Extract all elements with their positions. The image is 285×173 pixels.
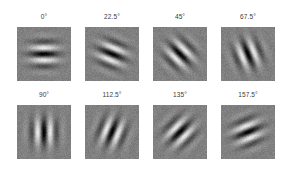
gabor-panel-0: 0° [17,13,71,81]
gabor-patch-image [17,27,71,81]
gabor-orientation-label: 45° [153,13,207,21]
gabor-orientation-label: 157.5° [221,91,275,99]
gabor-panel-22.5: 22.5° [85,13,139,81]
gabor-panel-67.5: 67.5° [221,13,275,81]
gabor-patch-image [85,27,139,81]
gabor-panel-135: 135° [153,91,207,159]
gabor-patch-image [85,105,139,159]
gabor-panel-112.5: 112.5° [85,91,139,159]
gabor-patch-image [17,105,71,159]
gabor-orientation-label: 22.5° [85,13,139,21]
gabor-patch-image [221,27,275,81]
gabor-patch-image [153,105,207,159]
gabor-filter-bank-figure: 0°22.5°45°67.5°90°112.5°135°157.5° [0,0,285,173]
gabor-orientation-label: 135° [153,91,207,99]
gabor-orientation-label: 90° [17,91,71,99]
gabor-orientation-label: 112.5° [85,91,139,99]
gabor-patch-image [221,105,275,159]
gabor-panel-45: 45° [153,13,207,81]
gabor-orientation-label: 0° [17,13,71,21]
gabor-panel-90: 90° [17,91,71,159]
gabor-patch-image [153,27,207,81]
gabor-orientation-label: 67.5° [221,13,275,21]
gabor-panel-157.5: 157.5° [221,91,275,159]
